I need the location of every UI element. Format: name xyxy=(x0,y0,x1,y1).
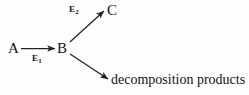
rate-label-e2: E2 xyxy=(69,5,79,14)
node-product-c: C xyxy=(107,3,117,18)
rate-label-e1: E1 xyxy=(32,54,42,63)
node-reactant-a: A xyxy=(8,41,19,56)
node-intermediate-b: B xyxy=(57,41,67,56)
rate-label-e2-subscript: 2 xyxy=(75,8,79,16)
rate-label-e1-subscript: 1 xyxy=(38,57,42,65)
reaction-scheme-diagram: A B C E1 E2 decomposition products xyxy=(0,0,249,95)
arrow-b-to-decomposition xyxy=(70,54,108,79)
node-decomposition-products: decomposition products xyxy=(111,73,245,87)
